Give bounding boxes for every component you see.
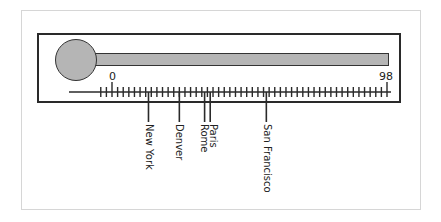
city-label-new-york: New York <box>144 124 154 170</box>
city-label-paris: Paris <box>208 124 218 148</box>
scale-axis <box>0 0 441 222</box>
city-label-denver: Denver <box>174 124 184 160</box>
city-label-san-francisco: San Francisco <box>262 124 272 193</box>
